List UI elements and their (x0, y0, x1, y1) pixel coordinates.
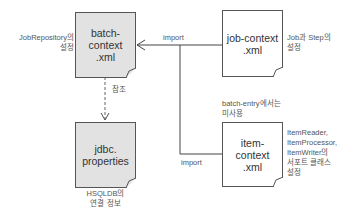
page-fold-icon (126, 178, 136, 188)
batch-context-label: batch- context .xml (89, 27, 123, 63)
item-context-file-node: item- context .xml (222, 122, 283, 187)
import-top-label: import (163, 33, 184, 43)
reference-label: 참조 (112, 85, 126, 95)
jdbc-properties-label: jdbc. properties (82, 143, 129, 167)
batch-context-note: JobRepository의 설정 (8, 33, 74, 53)
item-context-note: ItemReader, ItemProcessor, ItemWriter의 서… (287, 128, 337, 178)
job-context-label: job-context .xml (227, 32, 278, 56)
jdbc-properties-file-node: jdbc. properties (75, 122, 136, 188)
page-fold-icon (273, 177, 283, 187)
page-fold-icon (273, 67, 283, 77)
jdbc-note: HSQLDB의 연결 정보 (80, 189, 131, 209)
job-context-file-node: job-context .xml (222, 10, 283, 77)
import-bottom-label: import (181, 158, 202, 168)
page-fold-icon (126, 68, 136, 78)
batch-entry-note: batch-entry에서는 미사용 (222, 99, 281, 119)
job-context-note: Job과 Step의 설정 (287, 33, 331, 53)
item-context-label: item- context .xml (236, 137, 270, 173)
batch-context-file-node: batch- context .xml (75, 12, 136, 78)
